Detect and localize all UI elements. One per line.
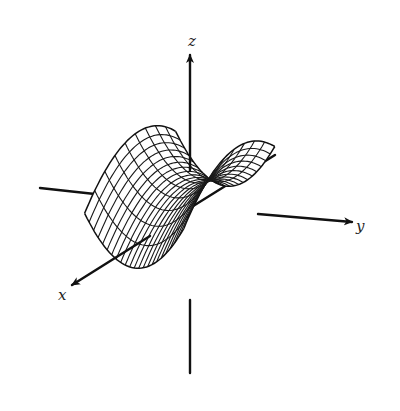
y-axis-label: y: [355, 217, 365, 235]
saddle-surface-figure: z y x: [0, 0, 400, 411]
z-axis-label: z: [187, 32, 196, 50]
saddle-surface-mesh: [85, 126, 275, 269]
y-axis-positive: [258, 214, 352, 222]
x-axis-label: x: [58, 286, 67, 304]
